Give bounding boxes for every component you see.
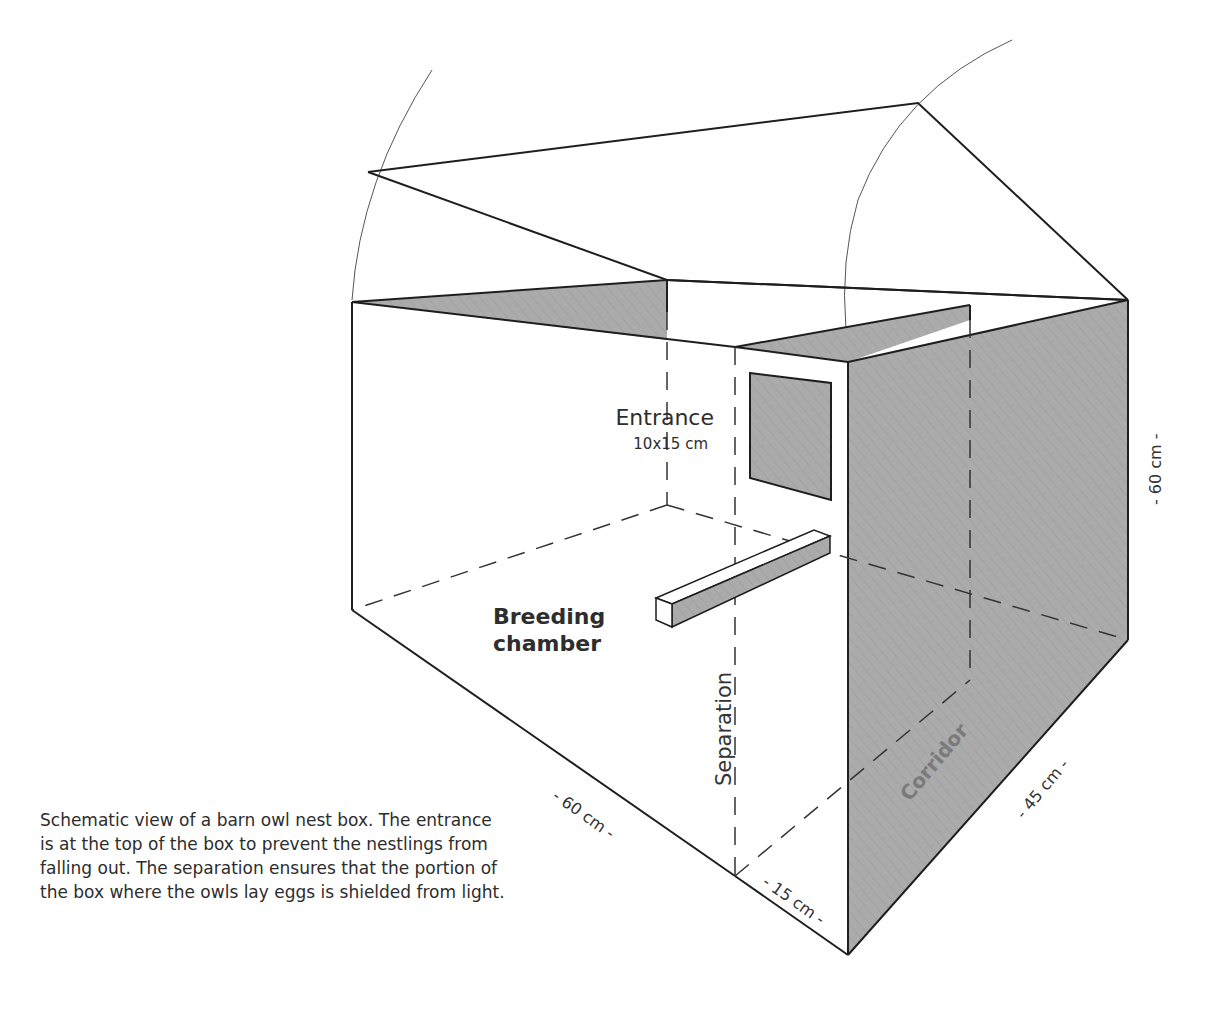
height-dimension: - 60 cm -	[1146, 433, 1165, 505]
entrance-hole	[750, 373, 831, 500]
separation-label: Separation	[712, 672, 736, 786]
perch-bar	[656, 530, 830, 627]
entrance-size-label: 10x15 cm	[604, 435, 708, 453]
lid-arc-lines	[352, 40, 1012, 330]
back-wall-shade	[352, 280, 667, 340]
entrance-label: Entrance	[604, 405, 714, 430]
caption-text: Schematic view of a barn owl nest box. T…	[40, 808, 510, 904]
breeding-chamber-label: Breeding chamber	[493, 603, 605, 657]
lid	[368, 103, 1128, 300]
breeding-label-line1: Breeding	[493, 603, 605, 630]
breeding-label-line2: chamber	[493, 630, 605, 657]
